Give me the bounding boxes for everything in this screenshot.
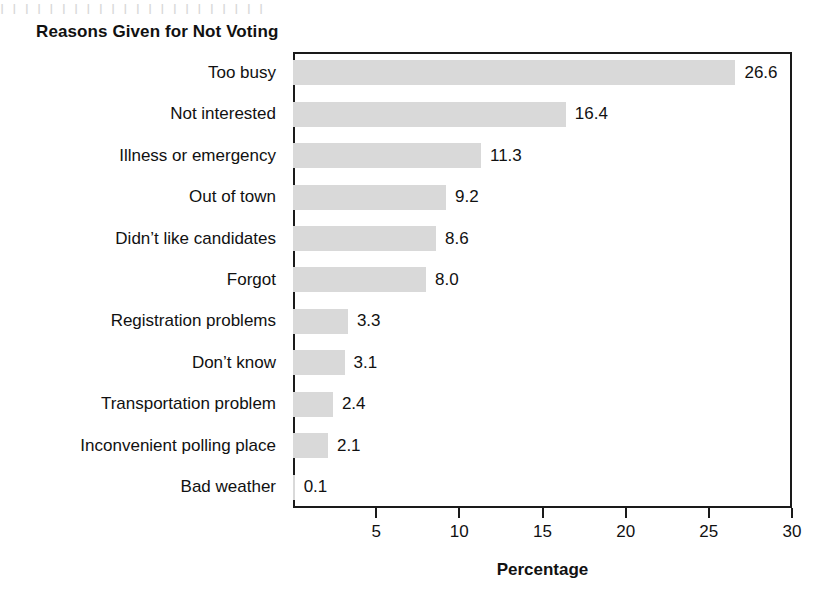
x-axis-tick-label: 15 <box>533 522 552 542</box>
bar <box>293 392 333 417</box>
category-label: Out of town <box>0 176 285 217</box>
category-label: Didn’t like candidates <box>0 218 285 259</box>
chart-title: Reasons Given for Not Voting <box>36 22 278 42</box>
category-label: Bad weather <box>0 467 285 508</box>
x-axis-tick <box>542 508 544 518</box>
bar-row: 2.1 <box>293 425 792 466</box>
bar-row: 3.3 <box>293 301 792 342</box>
bar-value-label: 9.2 <box>455 187 479 207</box>
x-axis-tick-label: 20 <box>616 522 635 542</box>
category-label: Illness or emergency <box>0 135 285 176</box>
bar-row: 11.3 <box>293 135 792 176</box>
bar-series: 26.616.411.39.28.68.03.33.12.42.10.1 <box>293 52 792 508</box>
bar <box>293 309 348 334</box>
bar-value-label: 8.0 <box>435 270 459 290</box>
category-label: Transportation problem <box>0 384 285 425</box>
bar-value-label: 26.6 <box>744 63 777 83</box>
bar <box>293 433 328 458</box>
x-axis-tick <box>708 508 710 518</box>
bar-value-label: 2.1 <box>337 436 361 456</box>
bar-row: 8.0 <box>293 259 792 300</box>
bar-row: 8.6 <box>293 218 792 259</box>
category-label: Registration problems <box>0 301 285 342</box>
x-axis-tick <box>458 508 460 518</box>
x-axis-tick-label: 30 <box>783 522 802 542</box>
category-label: Inconvenient polling place <box>0 425 285 466</box>
bar <box>293 475 295 500</box>
bar-value-label: 8.6 <box>445 229 469 249</box>
x-axis-tick <box>375 508 377 518</box>
bar-value-label: 3.3 <box>357 311 381 331</box>
bar <box>293 143 481 168</box>
bar-row: 26.6 <box>293 52 792 93</box>
bar-value-label: 0.1 <box>304 477 328 497</box>
bar-value-label: 16.4 <box>575 104 608 124</box>
x-axis-tick <box>625 508 627 518</box>
category-label: Forgot <box>0 259 285 300</box>
bar-value-label: 11.3 <box>490 146 522 166</box>
bar <box>293 267 426 292</box>
bar <box>293 185 446 210</box>
category-label: Not interested <box>0 93 285 134</box>
category-label: Too busy <box>0 52 285 93</box>
category-label: Don’t know <box>0 342 285 383</box>
bar <box>293 102 566 127</box>
x-axis-tick-label: 5 <box>371 522 380 542</box>
bar-row: 0.1 <box>293 467 792 508</box>
x-axis-tick <box>791 508 793 518</box>
category-axis-labels: Too busyNot interestedIllness or emergen… <box>0 52 285 508</box>
x-axis: 51015202530 <box>293 508 792 568</box>
bar-row: 9.2 <box>293 176 792 217</box>
bar <box>293 226 436 251</box>
bar-value-label: 2.4 <box>342 394 366 414</box>
page-bleed-through-text: I I I I I I I I I I I I I I I I I I I I … <box>0 0 822 20</box>
x-axis-tick-label: 25 <box>699 522 718 542</box>
bar-row: 3.1 <box>293 342 792 383</box>
x-axis-tick-label: 10 <box>450 522 469 542</box>
bar-row: 16.4 <box>293 93 792 134</box>
bar <box>293 350 345 375</box>
bar <box>293 60 735 85</box>
x-axis-title: Percentage <box>293 560 792 580</box>
bar-row: 2.4 <box>293 384 792 425</box>
bar-value-label: 3.1 <box>354 353 378 373</box>
